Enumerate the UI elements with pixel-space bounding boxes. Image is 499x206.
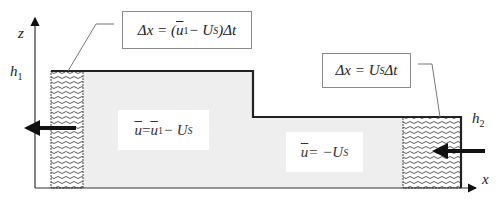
left-leader-line bbox=[68, 24, 114, 71]
up-minus: − U bbox=[163, 122, 188, 139]
x-axis-label: x bbox=[482, 172, 489, 187]
down-us-sub: S bbox=[343, 147, 348, 158]
h2-symbol: h bbox=[472, 110, 480, 126]
h1-symbol: h bbox=[10, 63, 18, 79]
right-bore-annotation: Δx = USΔt bbox=[322, 53, 411, 88]
down-u: u bbox=[301, 144, 309, 161]
right-leader-line bbox=[418, 64, 440, 117]
left-bore-annotation: Δx = (u1 − US)Δt bbox=[122, 11, 252, 49]
up-u1: u bbox=[150, 122, 158, 139]
right-annot-tail: Δt bbox=[384, 62, 397, 79]
h1-subscript: 1 bbox=[18, 71, 23, 82]
right-annot-delta: Δx = U bbox=[336, 62, 380, 79]
downstream-velocity-label: u = −US bbox=[286, 132, 363, 172]
h2-label: h2 bbox=[472, 111, 485, 129]
up-u: u bbox=[134, 122, 142, 139]
down-eq: = −U bbox=[308, 144, 343, 161]
upstream-velocity-label: u = u1 − US bbox=[118, 110, 209, 150]
fluid-body bbox=[51, 71, 461, 188]
up-eq: = bbox=[142, 122, 150, 139]
up-us-sub: S bbox=[188, 125, 193, 136]
left-annot-tail: )Δt bbox=[218, 22, 236, 39]
left-annot-u: u bbox=[176, 22, 184, 39]
left-annot-minus: − U bbox=[188, 22, 213, 39]
z-axis-label: z bbox=[18, 26, 24, 41]
left-annot-delta: Δx = ( bbox=[138, 22, 176, 39]
h2-subscript: 2 bbox=[480, 118, 485, 129]
h1-label: h1 bbox=[10, 64, 23, 82]
